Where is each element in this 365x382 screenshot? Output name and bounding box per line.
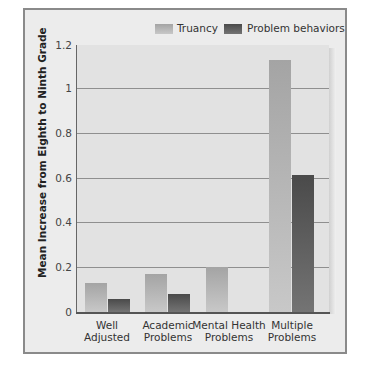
- y-axis-label: Mean Increase from Eighth to Ninth Grade: [36, 78, 48, 278]
- bar-problem-1: [168, 294, 190, 312]
- bar-problem-3: [292, 175, 314, 312]
- y-axis: [76, 45, 77, 313]
- gridline-1: [77, 88, 329, 89]
- x-axis: [76, 312, 330, 314]
- bar-truancy-3: [269, 60, 291, 312]
- x-category-label: WellAdjusted: [72, 319, 142, 343]
- gridline-0.8: [77, 133, 329, 134]
- y-tick-label: 0: [42, 306, 72, 318]
- bar-problem-0: [108, 299, 130, 313]
- bar-truancy-1: [145, 274, 167, 312]
- bar-truancy-0: [85, 283, 107, 312]
- legend-label-truancy: Truancy: [177, 22, 218, 34]
- legend-swatch-problem-behaviors: [224, 24, 242, 34]
- legend-label-problem-behaviors: Problem behaviors: [247, 22, 345, 34]
- bar-truancy-2: [206, 267, 228, 312]
- plot-3d-sidewall: [329, 48, 336, 314]
- legend-swatch-truancy: [155, 24, 173, 34]
- x-category-label: Mental HealthProblems: [192, 319, 266, 343]
- x-category-label: MultipleProblems: [257, 319, 327, 343]
